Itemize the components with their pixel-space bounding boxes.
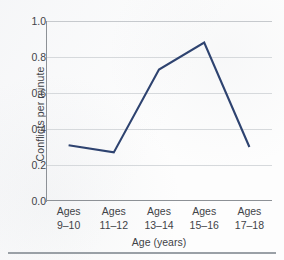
y-tick-label: 0.8 — [12, 52, 46, 63]
series-polyline — [69, 43, 250, 153]
x-tick-line-2: 13–14 — [136, 219, 181, 233]
x-axis-title: Age (years) — [46, 236, 272, 248]
x-tick-label-ages-15-16: Ages 15–16 — [182, 205, 227, 235]
page-rule-divider — [8, 252, 276, 254]
x-tick-line-1: Ages — [182, 205, 227, 219]
x-tick-label-ages-11-12: Ages 11–12 — [91, 205, 136, 235]
x-tick-line-2: 11–12 — [91, 219, 136, 233]
y-tick-label: 0.6 — [12, 88, 46, 99]
x-tick-label-ages-13-14: Ages 13–14 — [136, 205, 181, 235]
series-line-conflicts-per-minute — [46, 21, 272, 202]
x-tick-line-1: Ages — [91, 205, 136, 219]
y-tick-label: 1.0 — [12, 16, 46, 27]
x-tick-line-2: 9–10 — [46, 219, 91, 233]
x-tick-line-2: 17–18 — [227, 219, 272, 233]
x-tick-line-2: 15–16 — [182, 219, 227, 233]
x-tick-label-ages-17-18: Ages 17–18 — [227, 205, 272, 235]
x-tick-line-1: Ages — [136, 205, 181, 219]
chart-figure: Conflicts per minute 1.0 0.8 0.6 0.4 0.2… — [0, 0, 284, 260]
x-tick-line-1: Ages — [227, 205, 272, 219]
y-tick-label: 0.4 — [12, 124, 46, 135]
y-tick-label: 0.2 — [12, 160, 46, 171]
x-tick-line-1: Ages — [46, 205, 91, 219]
plot-area — [46, 21, 272, 201]
x-axis-tick-labels: Ages 9–10 Ages 11–12 Ages 13–14 Ages 15–… — [46, 205, 272, 235]
y-tick-label: 0.0 — [12, 196, 46, 207]
x-tick-label-ages-9-10: Ages 9–10 — [46, 205, 91, 235]
